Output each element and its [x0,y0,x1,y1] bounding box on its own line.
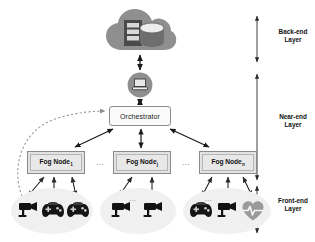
device-camera[interactable] [110,200,132,224]
orchestrator-node[interactable]: Orchestrator [109,106,171,126]
camera-icon [216,200,238,220]
fog-node-2-subscript: j [157,162,158,167]
fog-node-3-subscript: n [242,162,245,167]
layer-label-nearend-line1: Near-end [272,113,314,121]
layer-label-nearend: Near-end Layer [272,113,314,129]
cloud-icon [104,8,178,54]
camera-icon [142,200,164,220]
device-gamepad[interactable] [41,200,65,224]
fog-node-3[interactable]: Fog Noden [199,151,257,174]
layer-label-frontend-line2: Layer [272,205,314,213]
gamepad-icon [66,200,90,220]
server-rack-icon [124,20,142,46]
layer-label-backend-line2: Layer [272,36,314,44]
device-cluster-1 [11,188,93,234]
fog-node-1-subscript: 1 [70,162,73,167]
device-gamepad[interactable] [189,200,213,224]
fog-node-1-label: Fog Node1 [40,159,73,166]
fog-node-separator-1: ... [86,159,114,167]
fog-node-2-name: Fog Node [126,158,156,165]
device-cluster-2: ... [100,188,176,234]
orchestrator-label: Orchestrator [120,113,160,120]
gamepad-icon [41,200,65,220]
fog-node-3-name: Fog Node [211,158,241,165]
database-cylinder-icon [140,23,164,47]
device-gamepad[interactable] [66,200,90,224]
device-camera[interactable] [142,200,164,224]
layer-label-backend-line1: Back-end [272,28,314,36]
architecture-diagram: Orchestrator Fog Node1 ... Fog Nodej ...… [0,0,315,242]
cloud-datacenter [104,8,178,54]
fog-node-2-inner: Fog Nodej [116,154,168,171]
fog-node-1-name: Fog Node [40,158,70,165]
camera-icon [110,200,132,220]
layer-label-backend: Back-end Layer [272,28,314,44]
device-cluster-3: ... [183,188,271,234]
fog-node-3-label: Fog Noden [211,159,244,166]
fog-node-separator-2: ... [172,159,200,167]
fog-node-3-inner: Fog Noden [202,154,254,171]
device-camera[interactable] [216,200,238,224]
fog-node-2[interactable]: Fog Nodej [113,151,171,174]
heart-monitor-icon [241,200,265,222]
fog-node-1[interactable]: Fog Node1 [27,151,85,174]
connector-orchestrator-fognode-3 [170,129,209,147]
connector-orchestrator-fognode-1 [75,129,113,147]
layer-label-frontend-line1: Front-end [272,197,314,205]
camera-icon [17,200,39,220]
device-camera[interactable] [17,200,39,224]
gateway-node [127,72,153,98]
fog-node-1-inner: Fog Node1 [30,154,82,171]
gamepad-icon [189,200,213,220]
device-heart-monitor[interactable] [241,200,265,226]
layer-label-frontend: Front-end Layer [272,197,314,213]
gateway-device-icon [127,72,153,98]
layer-label-nearend-line2: Layer [272,121,314,129]
fog-node-2-label: Fog Nodej [126,159,158,166]
